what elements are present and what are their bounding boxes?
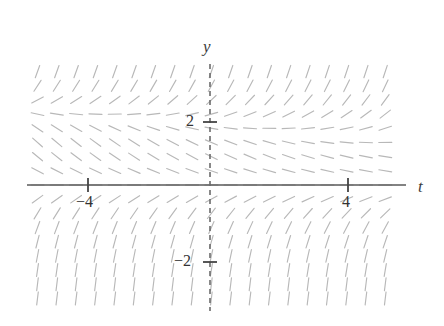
slope-field-figure: y t 2 −2 −4 4 <box>0 0 444 326</box>
y-axis-label: y <box>203 38 211 55</box>
axes-layer <box>27 64 406 311</box>
x-tick-label-neg4: −4 <box>76 194 93 210</box>
x-tick-label-4: 4 <box>342 194 350 210</box>
t-axis-label: t <box>418 178 423 195</box>
slope-field-canvas <box>0 0 444 326</box>
y-tick-label-neg2: −2 <box>174 253 191 269</box>
y-tick-label-2: 2 <box>186 113 194 129</box>
